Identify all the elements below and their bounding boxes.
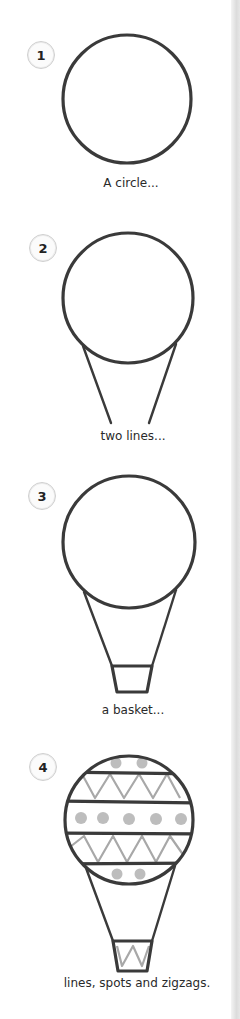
spot [75,812,87,824]
zigzag-lower [70,836,184,862]
stripe [60,772,200,774]
spot [175,813,187,825]
spot [135,869,146,880]
balloon-envelope-circle [63,35,191,163]
page-edge-shadow [231,0,240,1019]
step-4: 4 [0,740,232,1019]
balloon-circle-drawing [0,0,232,230]
balloon-envelope-circle [63,476,195,608]
zigzag-upper [82,774,180,798]
basket-zigzag [117,946,149,966]
balloon-envelope-circle [63,233,193,363]
stripe [60,801,200,803]
step-caption: A circle... [103,176,158,190]
spot [150,813,162,825]
step-caption: two lines... [100,429,165,443]
balloon-with-basket-drawing [0,470,232,740]
basket-shape [112,666,152,692]
step-caption: a basket... [102,703,164,717]
right-rope-line [149,344,176,423]
step-3: 3 a basket... [0,470,232,740]
spot [123,813,135,825]
spot [97,812,109,824]
step-caption: lines, spots and zigzags. [64,976,211,990]
left-rope-line [86,868,113,941]
step-2: 2 two lines... [0,230,232,470]
stripe [60,833,200,834]
spot [112,869,123,880]
step-1: 1 A circle... [0,0,232,230]
left-rope-line [83,346,111,423]
